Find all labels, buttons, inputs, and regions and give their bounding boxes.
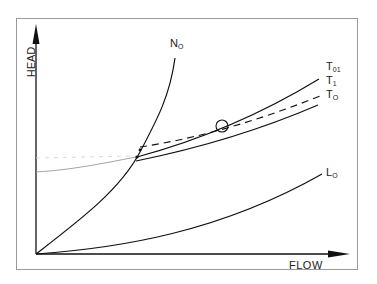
curve-n0 xyxy=(36,58,175,254)
faint-dashed-extension xyxy=(36,156,136,158)
label-l0: LO xyxy=(326,167,338,179)
x-axis-label: FLOW xyxy=(289,259,323,271)
y-axis-label: HEAD xyxy=(25,42,37,82)
curve-t0 xyxy=(136,105,318,161)
label-n0: NO xyxy=(170,38,183,50)
x-axis xyxy=(36,251,350,258)
label-t01: T01 xyxy=(326,61,341,73)
curve-t01 xyxy=(137,79,319,157)
label-t0: TO xyxy=(326,89,338,101)
label-t1: T1 xyxy=(326,75,337,87)
faint-system-curve xyxy=(36,157,136,172)
curve-t1 xyxy=(140,96,320,147)
curve-l0 xyxy=(36,174,322,254)
pump-curve-diagram xyxy=(0,0,377,284)
